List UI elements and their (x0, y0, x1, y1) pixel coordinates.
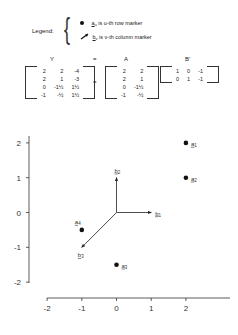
y-tick-label: -2 (14, 278, 22, 287)
x-tick-label: 2 (184, 304, 189, 313)
vector-label: b1 (155, 211, 161, 218)
point-label: a1 (191, 141, 197, 148)
point-label: a4 (75, 219, 81, 226)
y-tick-label: -1 (14, 243, 22, 252)
row-marker-point (114, 262, 119, 267)
y-tick-label: 1 (17, 174, 22, 183)
x-axis: -2-1012 (44, 298, 230, 313)
x-tick-label: -1 (78, 304, 86, 313)
x-tick-label: 1 (149, 304, 154, 313)
row-marker-point (184, 175, 189, 180)
row-markers: a1a2a3a4 (75, 141, 197, 270)
row-marker-point (80, 228, 85, 233)
vector-label: b3 (78, 252, 84, 259)
column-markers: b1b2b3 (78, 168, 162, 260)
vector-label: b2 (115, 168, 121, 175)
y-axis: 210-1-2 (14, 136, 29, 287)
x-tick-label: -2 (44, 304, 52, 313)
x-tick-label: 0 (114, 304, 119, 313)
point-label: a3 (122, 263, 128, 270)
point-label: a2 (191, 176, 197, 183)
column-marker-arrow (82, 213, 117, 248)
row-marker-point (184, 141, 189, 146)
biplot: 210-1-2 -2-1012 a1a2a3a4 b1b2b3 (0, 0, 238, 335)
y-tick-label: 2 (17, 139, 22, 148)
y-tick-label: 0 (17, 209, 22, 218)
